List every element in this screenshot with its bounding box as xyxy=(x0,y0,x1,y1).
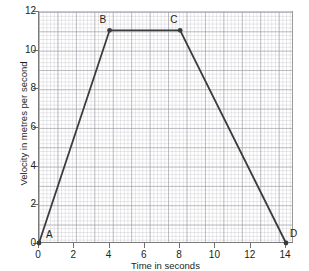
x-tick xyxy=(214,243,215,248)
x-tick xyxy=(144,243,145,248)
velocity-time-chart: 12 10 8 6 4 2 0 0 2 4 6 8 10 12 14 Veloc… xyxy=(0,0,309,271)
point-label-c: C xyxy=(170,15,177,25)
x-axis-label: Time in seconds xyxy=(38,260,293,271)
x-tick-label: 10 xyxy=(202,249,226,260)
x-tick xyxy=(109,243,110,248)
data-point-c xyxy=(178,28,183,33)
x-tick xyxy=(73,243,74,248)
y-tick-label: 0 xyxy=(10,238,36,248)
x-tick-label: 4 xyxy=(97,249,121,260)
data-point-a xyxy=(37,241,42,246)
x-tick-label: 0 xyxy=(26,249,50,260)
plot-area: ABCD xyxy=(38,11,293,243)
y-tick-label: 12 xyxy=(10,6,36,16)
x-tick-label: 6 xyxy=(132,249,156,260)
x-tick-label: 8 xyxy=(167,249,191,260)
x-tick-label: 12 xyxy=(238,249,262,260)
y-axis-label: Velocity in metres per second xyxy=(18,40,29,208)
point-label-d: D xyxy=(290,229,297,239)
x-tick xyxy=(250,243,251,248)
data-series-layer xyxy=(39,11,294,243)
point-label-a: A xyxy=(46,230,53,240)
x-tick-label: 14 xyxy=(273,249,297,260)
point-label-b: B xyxy=(100,15,107,25)
data-point-d xyxy=(284,241,289,246)
data-point-b xyxy=(107,28,112,33)
chart-title xyxy=(0,0,309,3)
x-tick-label: 2 xyxy=(61,249,85,260)
velocity-line xyxy=(39,30,286,243)
x-tick xyxy=(179,243,180,248)
